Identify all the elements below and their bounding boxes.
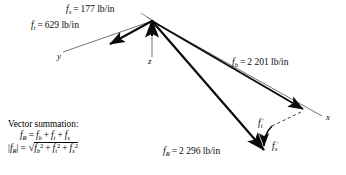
label-fb-equals: = [238,57,247,67]
vector-summation-block: Vector summation: fR=fb+ft+fs |fR|=√fb2+… [8,119,79,154]
axis-label-y: y [57,52,61,61]
label-fs: fs=177 lb/in [66,5,115,16]
component-ft-prime-dashed [272,112,301,126]
label-ft: ft=629 lb/in [31,21,79,32]
eq1-plus-2: + [55,130,64,140]
summation-equation-1: fR=fb+ft+fs [20,130,79,141]
label-fR-unit: lb/in [203,146,220,156]
eq1-plus-1: + [42,130,51,140]
label-fs-unit: lb/in [97,4,114,14]
axis-label-x: x [326,113,330,122]
label-fR-value: 2 296 [179,146,200,156]
vector-ft [110,21,152,44]
axis-label-z: z [148,57,152,66]
label-fR: fR=2 296 lb/in [163,147,220,158]
label-fs-prime: fs′ [272,141,279,153]
leader-line-fs [141,13,150,19]
figure-canvas: fs=177 lb/in ft=629 lb/in fb=2 201 lb/in… [0,0,346,175]
label-fb-unit: lb/in [271,57,288,67]
eq1-term3-sub: s [67,134,70,141]
eq1-equals: = [27,130,36,140]
eq2-radical-group: √fb2+ft2+fs2 [28,142,78,154]
label-fs-value: 177 [81,4,95,14]
label-fR-equals: = [170,146,179,156]
summation-title: Vector summation: [8,119,79,129]
label-ft-value: 629 [45,20,59,30]
summation-equation-2: |fR|=√fb2+ft2+fs2 [8,142,79,154]
vector-fR [152,21,264,150]
eq2-plus-2: + [60,143,69,153]
eq2-plus-1: + [43,143,52,153]
label-fb-value: 2 201 [247,57,268,67]
label-ft-prime-mark: ′ [262,117,263,124]
component-fs-prime [264,126,272,146]
label-fs-prime-mark: ′ [277,140,278,147]
eq2-equals: = [18,143,27,153]
label-ft-equals: = [35,20,44,30]
label-ft-prime: ft′ [258,118,264,130]
label-fs-equals: = [71,4,80,14]
label-fb: fb=2 201 lb/in [232,58,288,69]
label-ft-unit: lb/in [61,20,78,30]
radical-overbar [34,142,78,143]
